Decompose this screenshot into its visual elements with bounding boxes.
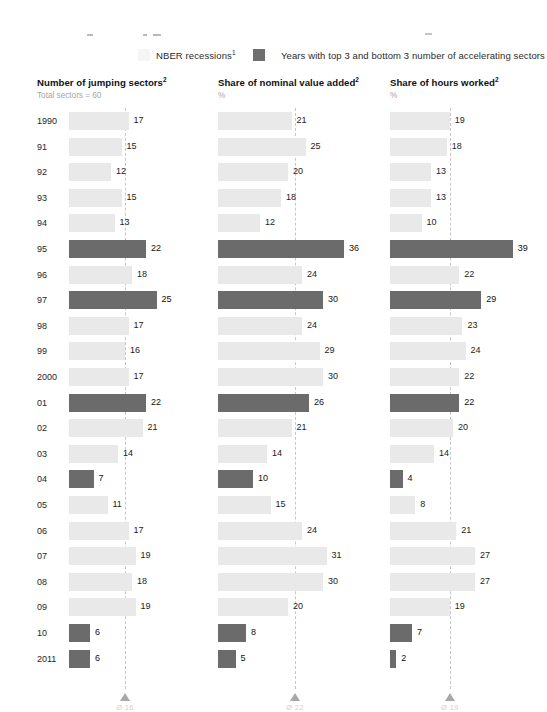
bar-value-label: 30 xyxy=(328,371,338,381)
bar-value-label: 15 xyxy=(127,141,137,151)
bar-track xyxy=(390,445,516,463)
chart-panel-jumping-sectors: Number of jumping sectors2Total sectors … xyxy=(37,74,210,674)
bar xyxy=(69,189,122,207)
bar xyxy=(218,266,302,284)
bar-track xyxy=(69,189,209,207)
chart-row: 5 xyxy=(218,646,391,672)
bar-value-label: 8 xyxy=(251,627,256,637)
chart-row: 19 xyxy=(390,594,547,620)
mean-marker: Ø 16 xyxy=(111,693,139,712)
legend-text-nber: NBER recessions xyxy=(156,50,232,61)
chart-row: 0314 xyxy=(37,441,210,467)
bar xyxy=(390,445,434,463)
bar-value-label: 6 xyxy=(95,627,100,637)
bar xyxy=(390,214,422,232)
bar xyxy=(218,598,288,616)
bar-highlighted xyxy=(390,624,412,642)
chart-row: 14 xyxy=(218,441,391,467)
chart-row: 13 xyxy=(390,185,547,211)
chart-row: 0221 xyxy=(37,415,210,441)
bar-track xyxy=(69,547,209,565)
bar-highlighted xyxy=(69,624,90,642)
bar xyxy=(218,342,320,360)
legend-footnote-nber: 1 xyxy=(232,49,236,56)
bar-highlighted xyxy=(390,394,459,412)
bar xyxy=(69,598,136,616)
bar xyxy=(69,266,132,284)
bar-highlighted xyxy=(390,240,513,258)
bar-value-label: 30 xyxy=(328,294,338,304)
bar-value-label: 25 xyxy=(162,294,172,304)
bar-value-label: 24 xyxy=(307,525,317,535)
chart-row: 9618 xyxy=(37,262,210,288)
chart-row: 106 xyxy=(37,620,210,646)
chart-row: 2 xyxy=(390,646,547,672)
chart-row: 30 xyxy=(218,364,391,390)
bar-track xyxy=(390,163,516,181)
bar-track xyxy=(218,138,358,156)
chart-row: 30 xyxy=(218,287,391,313)
bar xyxy=(218,189,281,207)
bar xyxy=(218,445,267,463)
year-axis-label: 93 xyxy=(37,193,65,203)
bar-value-label: 19 xyxy=(141,550,151,560)
bar-track xyxy=(218,522,358,540)
chart-row: 21 xyxy=(390,518,547,544)
bar-value-label: 27 xyxy=(480,550,490,560)
bar xyxy=(69,214,115,232)
bar-value-label: 22 xyxy=(151,243,161,253)
bar-value-label: 26 xyxy=(314,397,324,407)
bar-value-label: 16 xyxy=(130,345,140,355)
year-axis-label: 94 xyxy=(37,218,65,228)
bar-value-label: 15 xyxy=(276,499,286,509)
bar-highlighted xyxy=(218,650,236,668)
chart-row: 0818 xyxy=(37,569,210,595)
bar-track xyxy=(69,419,209,437)
chart-row: 18 xyxy=(218,185,391,211)
bar-track xyxy=(390,291,516,309)
chart-row: 26 xyxy=(218,390,391,416)
bar-track xyxy=(390,266,516,284)
panel-title-footnote: 2 xyxy=(495,76,499,83)
bar-value-label: 17 xyxy=(134,525,144,535)
panel-title: Share of nominal value added2 xyxy=(218,74,391,89)
year-axis-label: 2011 xyxy=(37,654,69,664)
bar-value-label: 7 xyxy=(99,473,104,483)
bar-track xyxy=(69,138,209,156)
bar-value-label: 11 xyxy=(113,499,122,509)
bar xyxy=(390,189,431,207)
bar xyxy=(218,419,292,437)
bar-track xyxy=(218,419,358,437)
bar xyxy=(69,573,132,591)
year-axis-label: 02 xyxy=(37,423,65,433)
bar xyxy=(69,547,136,565)
mean-marker-label: Ø 19 xyxy=(436,703,464,712)
bar-value-label: 29 xyxy=(325,345,335,355)
chart-row: 9413 xyxy=(37,210,210,236)
mean-marker-triangle-icon xyxy=(120,693,130,701)
bar-highlighted xyxy=(69,240,146,258)
year-axis-label: 10 xyxy=(37,628,65,638)
chart-row: 12 xyxy=(218,210,391,236)
bar-highlighted xyxy=(218,470,253,488)
scan-speck xyxy=(143,34,147,36)
panel-title-footnote: 2 xyxy=(355,76,359,83)
bar-value-label: 6 xyxy=(95,653,100,663)
mean-marker: Ø 22 xyxy=(281,693,309,712)
bar-track xyxy=(69,470,209,488)
bar xyxy=(390,419,453,437)
panel-title: Number of jumping sectors2 xyxy=(37,74,210,89)
chart-row: 9817 xyxy=(37,313,210,339)
chart-row: 29 xyxy=(218,338,391,364)
bar-track xyxy=(69,624,209,642)
bar-track xyxy=(69,650,209,668)
bar-value-label: 5 xyxy=(241,653,246,663)
bar-highlighted xyxy=(390,470,403,488)
bar-track xyxy=(390,214,516,232)
chart-row: 9115 xyxy=(37,134,210,160)
bar-track xyxy=(218,163,358,181)
bar-value-label: 17 xyxy=(134,115,144,125)
chart-row: 9212 xyxy=(37,159,210,185)
bar-track xyxy=(218,394,358,412)
bar xyxy=(390,547,475,565)
